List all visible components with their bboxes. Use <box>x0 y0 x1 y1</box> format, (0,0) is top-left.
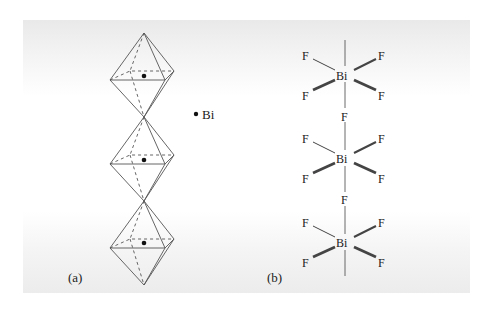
bi-atom-3: Bi <box>336 236 348 250</box>
f-atom: F <box>378 132 385 146</box>
f-atom: F <box>302 132 309 146</box>
f-atom: F <box>378 256 385 270</box>
f-atom: F <box>302 172 309 186</box>
octahedra-chain <box>110 33 174 285</box>
bi-legend: Bi <box>194 107 215 122</box>
f-atom: F <box>378 216 385 230</box>
legend-label: Bi <box>202 107 215 122</box>
octahedron-1 <box>110 33 174 117</box>
bridging-f-2: F <box>341 193 348 207</box>
bi-atom-1: Bi <box>336 69 348 83</box>
panel-b-label: (b) <box>267 270 282 285</box>
f-atom: F <box>302 49 309 63</box>
octahedron-2 <box>110 117 174 201</box>
figure-drawing: Bi (a) (b) <box>0 0 493 309</box>
f-atom: F <box>302 216 309 230</box>
f-atom: F <box>378 49 385 63</box>
bif-unit-3-labels: Bi F F F F <box>302 216 385 270</box>
bif-unit-1-labels: Bi F F F F <box>302 49 385 103</box>
bif-unit-2-labels: Bi F F F F <box>302 132 385 186</box>
f-atom: F <box>378 172 385 186</box>
bridging-f-1: F <box>341 110 348 124</box>
bi-atom-2: Bi <box>336 152 348 166</box>
f-atom: F <box>302 256 309 270</box>
bi-dot-icon <box>194 112 198 116</box>
f-atom: F <box>378 89 385 103</box>
f-atom: F <box>302 89 309 103</box>
panel-a-label: (a) <box>68 270 82 285</box>
octahedron-3 <box>110 201 174 285</box>
